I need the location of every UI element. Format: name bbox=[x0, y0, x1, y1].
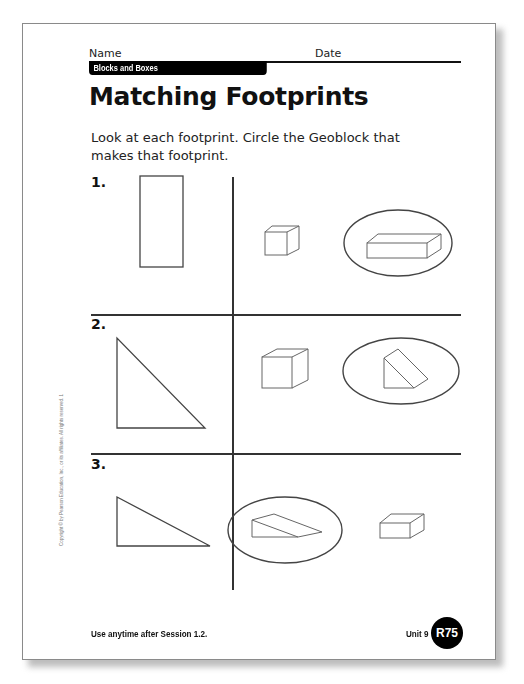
footprint-long-triangle-icon bbox=[117, 497, 210, 546]
small-rectangular-prism-icon bbox=[380, 514, 424, 538]
unit-label: Unit 9 bbox=[406, 628, 428, 639]
session-note: Use anytime after Session 1.2. bbox=[91, 628, 207, 639]
wedge-prism-icon bbox=[252, 514, 322, 537]
page-number-badge: R75 bbox=[431, 617, 463, 649]
answer-circle-icon bbox=[228, 497, 342, 563]
copyright-notice: Copyright © by Pearson Education, Inc., … bbox=[59, 394, 64, 546]
problem-3-drawings bbox=[0, 0, 524, 684]
